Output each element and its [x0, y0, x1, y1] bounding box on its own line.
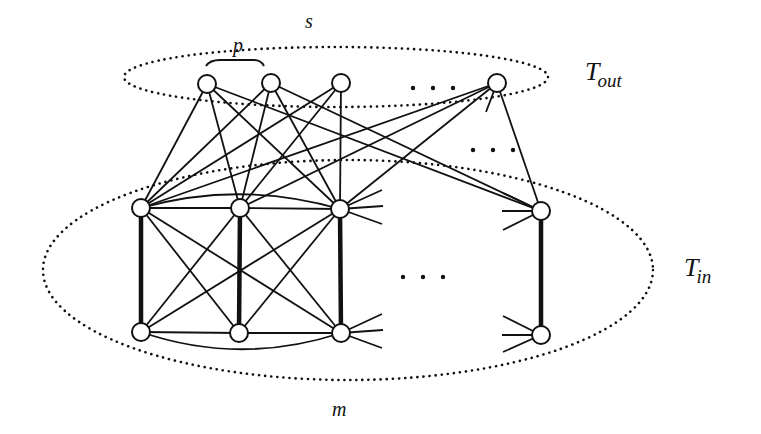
node-top [488, 74, 506, 92]
label-t-in: Tin [684, 253, 711, 287]
edge [207, 84, 340, 209]
edge [271, 83, 340, 209]
node-top [332, 74, 350, 92]
edge [240, 83, 497, 208]
node-bot [230, 324, 248, 342]
node-mid [231, 199, 249, 217]
edge [340, 83, 341, 209]
edge [240, 208, 340, 209]
node-bot [332, 324, 350, 342]
inner-ellipsis-dot [421, 275, 425, 279]
label-p: p [231, 34, 243, 57]
edge [340, 83, 497, 209]
label-t-in-subscript: in [696, 266, 711, 287]
node-mid [132, 199, 150, 217]
middle-ellipsis-dot [471, 148, 475, 152]
top-row-ellipsis-dot [411, 86, 415, 90]
inner-ellipsis-dot [401, 275, 405, 279]
node-mid [532, 202, 550, 220]
inner-ellipsis-dot [441, 275, 445, 279]
middle-ellipsis-dot [511, 148, 515, 152]
node-mid [331, 200, 349, 218]
label-t-out-subscript: out [597, 70, 622, 91]
edge [141, 83, 341, 208]
edge [207, 84, 541, 211]
node-top [198, 75, 216, 93]
node-bot [532, 326, 550, 344]
top-row-ellipsis-dot [431, 86, 435, 90]
edge [141, 332, 239, 333]
p-brace [206, 60, 264, 66]
top-row-ellipsis-dot [451, 86, 455, 90]
middle-ellipsis-dot [491, 148, 495, 152]
node-bot [132, 323, 150, 341]
edge [141, 84, 207, 208]
label-m: m [332, 398, 346, 420]
t-in-ellipse [43, 160, 653, 380]
label-t-out: Tout [585, 57, 622, 91]
thick-edge [340, 209, 341, 333]
thick-vertical-edges [141, 208, 541, 335]
label-s: s [305, 10, 313, 32]
node-top [262, 74, 280, 92]
thick-edge [239, 208, 240, 333]
edge [497, 83, 541, 211]
graph-diagram: p s m Tout Tin [0, 0, 761, 434]
